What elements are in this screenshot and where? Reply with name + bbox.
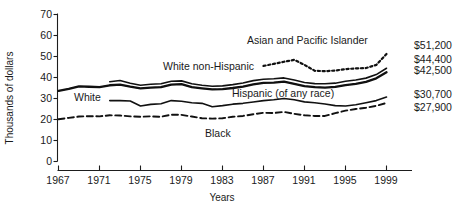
y-tick-label: 40 xyxy=(40,71,52,83)
series-line xyxy=(264,54,387,71)
x-axis-title: Years xyxy=(209,192,234,203)
x-tick-label: 1991 xyxy=(292,174,316,186)
x-tick-label: 1999 xyxy=(374,174,398,186)
series-line xyxy=(59,72,387,91)
end-label-asian-pacific: $51,200 xyxy=(414,39,452,51)
x-tick-labels: 1967 1971 1975 1979 1983 1987 1991 1995 … xyxy=(46,174,398,186)
y-tick-label: 30 xyxy=(40,92,52,104)
series-label-asian-pacific: Asian and Pacific Islander xyxy=(247,34,368,46)
y-tick-label: 0 xyxy=(46,155,52,167)
series-label-white: White xyxy=(74,91,101,103)
y-tick-label: 20 xyxy=(40,113,52,125)
end-label-hispanic: $30,700 xyxy=(414,88,452,100)
x-tick-label: 1975 xyxy=(128,174,152,186)
y-tick-label: 70 xyxy=(40,8,52,20)
y-tick-label: 50 xyxy=(40,50,52,62)
series-label-white-non-hispanic: White non-Hispanic xyxy=(163,60,254,72)
end-label-white: $42,500 xyxy=(414,64,452,76)
y-tick-label: 60 xyxy=(40,29,52,41)
x-axis-ticks xyxy=(59,166,387,171)
x-tick-label: 1971 xyxy=(87,174,111,186)
line-chart: Thousands of dollars 70 60 50 40 30 20 1… xyxy=(0,0,454,213)
series-label-hispanic: Hispanic (of any race) xyxy=(232,87,334,99)
x-tick-label: 1979 xyxy=(169,174,193,186)
y-axis-ticks xyxy=(54,15,58,162)
chart-container: Thousands of dollars 70 60 50 40 30 20 1… xyxy=(0,0,454,213)
x-tick-label: 1987 xyxy=(251,174,275,186)
y-axis-title: Thousands of dollars xyxy=(4,52,15,145)
x-tick-label: 1983 xyxy=(210,174,234,186)
x-tick-label: 1995 xyxy=(333,174,357,186)
end-label-black: $27,900 xyxy=(414,101,452,113)
x-tick-label: 1967 xyxy=(46,174,70,186)
y-tick-labels: 70 60 50 40 30 20 10 0 xyxy=(40,8,52,167)
y-tick-label: 10 xyxy=(40,134,52,146)
series-label-black: Black xyxy=(205,127,231,139)
